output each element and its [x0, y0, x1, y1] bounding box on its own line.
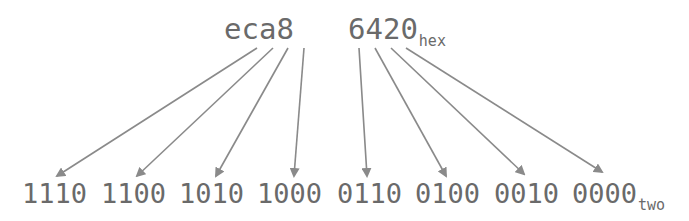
arrow-8 [294, 48, 304, 176]
binary-nibble-6: 0100 [415, 178, 480, 209]
arrow-2 [391, 48, 524, 174]
binary-nibble-8: 0000two [572, 178, 665, 214]
binary-subscript: two [638, 196, 665, 214]
binary-nibble-3: 1010 [179, 178, 244, 209]
binary-nibble-5: 0110 [337, 178, 402, 209]
arrow-0 [406, 48, 602, 172]
binary-nibble-2: 1100 [101, 178, 166, 209]
arrow-6 [359, 48, 367, 176]
binary-nibble-4: 1000 [257, 178, 322, 209]
binary-nibble-7: 0010 [494, 178, 559, 209]
hex-to-binary-diagram: eca8 6420hex 1110 1100 1010 1000 0110 01… [0, 0, 689, 221]
binary-nibble-8-text: 0000 [572, 178, 637, 209]
binary-nibble-1: 1110 [22, 178, 87, 209]
